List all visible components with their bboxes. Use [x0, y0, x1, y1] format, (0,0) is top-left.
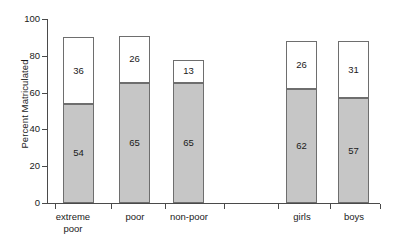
bar-segment-lower[interactable]: 54: [63, 104, 94, 203]
x-axis-tick: [55, 204, 56, 209]
y-axis-tick-label-text: 100: [16, 14, 40, 24]
x-axis-tick: [330, 204, 331, 209]
bar-value-label-lower: 65: [129, 138, 140, 148]
bar-segment-upper[interactable]: 31: [338, 41, 369, 98]
bar-segment-lower[interactable]: 65: [173, 83, 204, 203]
y-axis-tick-label: 0: [12, 198, 40, 208]
bar-value-label-upper: 31: [348, 65, 359, 75]
x-axis-tick: [165, 204, 166, 209]
x-axis-tick: [278, 204, 279, 209]
y-axis-tick-label: 100: [12, 14, 40, 24]
x-axis-tick: [111, 204, 112, 209]
stacked-bar[interactable]: 5436: [63, 37, 94, 203]
x-axis-tick: [224, 204, 225, 209]
plot-area: 54366526651362265731: [47, 19, 380, 203]
y-axis-tick-label-text: 40: [16, 124, 40, 134]
x-axis-category-label: boys: [318, 211, 390, 223]
y-axis-tick-label-text: 20: [16, 161, 40, 171]
x-axis-category-label: non-poor: [150, 211, 228, 223]
stacked-bar[interactable]: 5731: [338, 41, 369, 203]
y-axis-tick-label: 80: [12, 51, 40, 61]
y-axis-tick-label-text: 0: [16, 198, 40, 208]
y-axis-tick-label: 40: [12, 124, 40, 134]
bar-value-label-upper: 26: [129, 54, 140, 64]
bar-segment-lower[interactable]: 57: [338, 98, 369, 203]
stacked-bar[interactable]: 6513: [173, 59, 204, 203]
bar-segment-lower[interactable]: 65: [119, 83, 150, 203]
y-axis-tick-label-text: 80: [16, 51, 40, 61]
y-axis-tick-label-text: 60: [16, 88, 40, 98]
y-axis-tick-label: 20: [12, 161, 40, 171]
bar-value-label-lower: 65: [183, 138, 194, 148]
bar-segment-upper[interactable]: 26: [286, 41, 317, 89]
x-axis-tick: [380, 204, 381, 209]
bar-value-label-upper: 36: [73, 66, 84, 76]
bar-segment-lower[interactable]: 62: [286, 89, 317, 203]
stacked-bar[interactable]: 6526: [119, 36, 150, 203]
bar-segment-upper[interactable]: 26: [119, 36, 150, 84]
bar-value-label-upper: 13: [183, 66, 194, 76]
bar-value-label-upper: 26: [296, 60, 307, 70]
bar-value-label-lower: 54: [73, 148, 84, 158]
bar-segment-upper[interactable]: 36: [63, 37, 94, 103]
bar-segment-upper[interactable]: 13: [173, 60, 204, 84]
stacked-bar[interactable]: 6226: [286, 41, 317, 203]
y-axis-tick-label: 60: [12, 88, 40, 98]
bar-value-label-lower: 62: [296, 141, 307, 151]
bar-value-label-lower: 57: [348, 146, 359, 156]
chart-container: Percent Matriculated 020406080100 543665…: [0, 0, 393, 252]
